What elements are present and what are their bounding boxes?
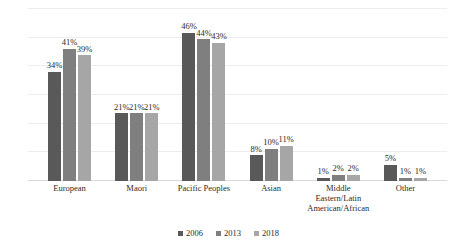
bar-item[interactable]: 1% [399, 8, 412, 181]
bar-group: 8%10%11% [238, 8, 305, 181]
bar-value-label: 5% [385, 154, 396, 163]
legend-swatch [216, 231, 221, 236]
legend-label: 2018 [262, 228, 279, 238]
bar[interactable] [280, 146, 293, 181]
x-axis-label: Maori [103, 183, 170, 213]
bar-value-label: 1% [415, 167, 426, 176]
bar-value-label: 8% [250, 145, 261, 154]
bar-item[interactable]: 10% [265, 8, 278, 181]
x-axis-label: Pacific Peoples [170, 183, 237, 213]
bar[interactable] [384, 165, 397, 181]
bar[interactable] [48, 72, 61, 181]
legend-swatch [178, 231, 183, 236]
bar[interactable] [130, 113, 143, 181]
bar-value-label: 43% [211, 32, 227, 41]
x-axis-label: Asian [238, 183, 305, 213]
bar[interactable] [197, 39, 210, 181]
bar-value-label: 1% [400, 167, 411, 176]
bar-value-label: 11% [278, 135, 293, 144]
bar-value-label: 41% [62, 38, 78, 47]
bar-group: 5%1%1% [372, 8, 439, 181]
bar-group: 46%44%43% [170, 8, 237, 181]
legend-swatch [254, 231, 259, 236]
bar-value-label: 2% [333, 164, 344, 173]
x-axis-label: Other [372, 183, 439, 213]
bar-group: 21%21%21% [103, 8, 170, 181]
bar[interactable] [265, 149, 278, 181]
bar[interactable] [250, 155, 263, 181]
x-axis-labels: EuropeanMaoriPacific PeoplesAsianMiddleE… [28, 183, 447, 213]
chart-legend: 200620132018 [0, 228, 457, 238]
bar-item[interactable]: 43% [212, 8, 225, 181]
bar-item[interactable]: 21% [145, 8, 158, 181]
legend-label: 2006 [186, 228, 203, 238]
bar-chart: 34%41%39%21%21%21%46%44%43%8%10%11%1%2%2… [0, 0, 457, 251]
bar-value-label: 39% [77, 45, 93, 54]
x-axis-label: MiddleEastern/LatinAmerican/African [305, 183, 372, 213]
bar-value-label: 21% [114, 103, 130, 112]
bar-value-label: 21% [129, 103, 145, 112]
bar-item[interactable]: 39% [78, 8, 91, 181]
bar-group: 34%41%39% [36, 8, 103, 181]
bar-item[interactable]: 41% [63, 8, 76, 181]
bar-value-label: 2% [348, 164, 359, 173]
bar[interactable] [212, 43, 225, 181]
bar-value-label: 1% [318, 167, 329, 176]
bar-item[interactable]: 2% [347, 8, 360, 181]
plot-area: 34%41%39%21%21%21%46%44%43%8%10%11%1%2%2… [28, 8, 447, 181]
bar-value-label: 10% [263, 138, 279, 147]
bar-item[interactable]: 8% [250, 8, 263, 181]
legend-label: 2013 [224, 228, 241, 238]
bar-value-label: 46% [181, 22, 197, 31]
bar-value-label: 44% [196, 29, 212, 38]
legend-item[interactable]: 2006 [178, 228, 203, 238]
bar[interactable] [332, 175, 345, 181]
bar-item[interactable]: 1% [414, 8, 427, 181]
bar-item[interactable]: 11% [280, 8, 293, 181]
bar[interactable] [145, 113, 158, 181]
bar-value-label: 34% [47, 61, 63, 70]
bar[interactable] [317, 178, 330, 181]
bar-value-label: 21% [144, 103, 160, 112]
bar-item[interactable]: 44% [197, 8, 210, 181]
bar[interactable] [399, 178, 412, 181]
bar[interactable] [63, 49, 76, 181]
bar-item[interactable]: 21% [130, 8, 143, 181]
bar-item[interactable]: 2% [332, 8, 345, 181]
bar-groups: 34%41%39%21%21%21%46%44%43%8%10%11%1%2%2… [28, 8, 447, 181]
bar[interactable] [347, 175, 360, 181]
bar-group: 1%2%2% [305, 8, 372, 181]
bar-item[interactable]: 34% [48, 8, 61, 181]
bar-item[interactable]: 1% [317, 8, 330, 181]
x-axis-label: European [36, 183, 103, 213]
bar[interactable] [78, 55, 91, 181]
bar-item[interactable]: 46% [182, 8, 195, 181]
bar-item[interactable]: 5% [384, 8, 397, 181]
legend-item[interactable]: 2013 [216, 228, 241, 238]
bar-item[interactable]: 21% [115, 8, 128, 181]
bar[interactable] [115, 113, 128, 181]
bar[interactable] [182, 33, 195, 181]
bar[interactable] [414, 178, 427, 181]
legend-item[interactable]: 2018 [254, 228, 279, 238]
